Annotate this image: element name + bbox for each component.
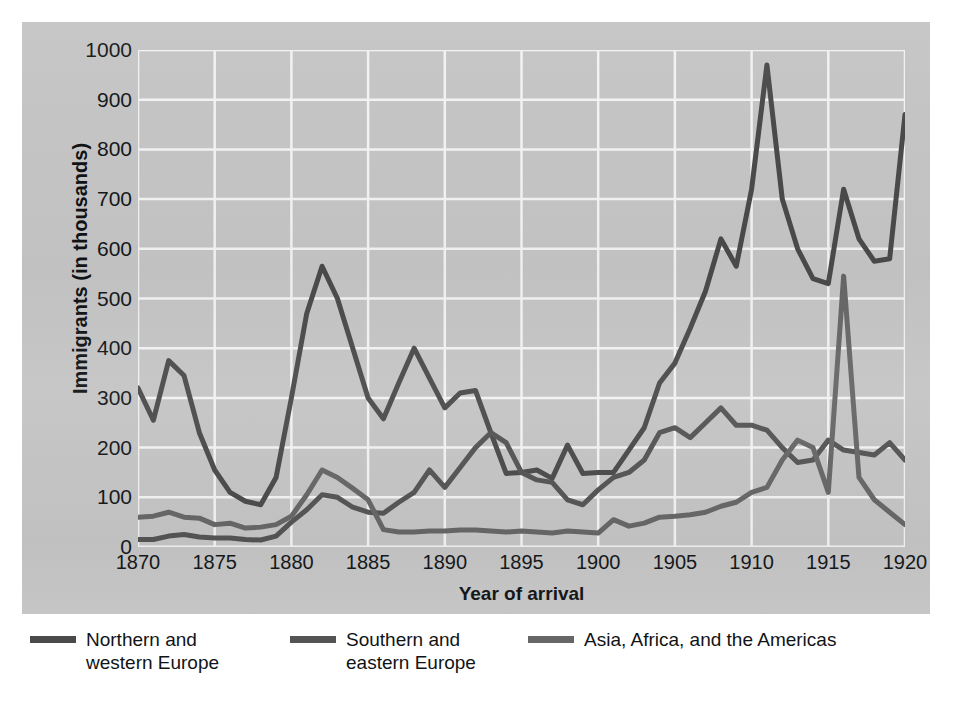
legend-label: Southern and eastern Europe bbox=[346, 628, 476, 674]
x-tick-label: 1915 bbox=[806, 551, 851, 574]
x-tick-label: 1890 bbox=[423, 551, 468, 574]
legend-swatch-icon bbox=[30, 636, 76, 643]
legend-swatch-icon bbox=[290, 636, 336, 643]
legend-swatch-icon bbox=[528, 636, 574, 643]
x-tick-label: 1880 bbox=[269, 551, 314, 574]
y-tick-label: 1000 bbox=[85, 38, 132, 62]
x-tick-label: 1920 bbox=[883, 551, 928, 574]
plot-area bbox=[138, 50, 905, 547]
chart-page: Immigrants (in thousands) 01002003004005… bbox=[0, 0, 976, 703]
x-tick-label: 1905 bbox=[653, 551, 698, 574]
x-tick-label: 1870 bbox=[116, 551, 161, 574]
x-axis-tick-labels: 1870187518801885189018951900190519101915… bbox=[138, 551, 905, 579]
legend-item-asia-africa-americas: Asia, Africa, and the Americas bbox=[528, 628, 836, 651]
y-tick-label: 600 bbox=[97, 237, 132, 261]
x-tick-label: 1910 bbox=[729, 551, 774, 574]
chart-panel: Immigrants (in thousands) 01002003004005… bbox=[22, 22, 930, 614]
legend-item-northern-western-europe: Northern and western Europe bbox=[30, 628, 219, 674]
y-axis-tick-labels: 01002003004005006007008009001000 bbox=[42, 50, 132, 547]
chart-legend: Northern and western Europe Southern and… bbox=[22, 628, 932, 686]
y-tick-label: 200 bbox=[97, 436, 132, 460]
y-tick-label: 900 bbox=[97, 88, 132, 112]
x-tick-label: 1895 bbox=[499, 551, 544, 574]
y-tick-label: 700 bbox=[97, 187, 132, 211]
y-tick-label: 300 bbox=[97, 386, 132, 410]
x-tick-label: 1875 bbox=[192, 551, 237, 574]
y-tick-label: 500 bbox=[97, 287, 132, 311]
x-tick-label: 1885 bbox=[346, 551, 391, 574]
y-tick-label: 800 bbox=[97, 137, 132, 161]
legend-label: Asia, Africa, and the Americas bbox=[584, 628, 836, 651]
line-chart-svg bbox=[138, 50, 905, 547]
x-tick-label: 1900 bbox=[576, 551, 621, 574]
legend-label: Northern and western Europe bbox=[86, 628, 219, 674]
y-tick-label: 400 bbox=[97, 336, 132, 360]
y-tick-label: 100 bbox=[97, 485, 132, 509]
legend-item-southern-eastern-europe: Southern and eastern Europe bbox=[290, 628, 476, 674]
x-axis-title: Year of arrival bbox=[138, 583, 905, 605]
